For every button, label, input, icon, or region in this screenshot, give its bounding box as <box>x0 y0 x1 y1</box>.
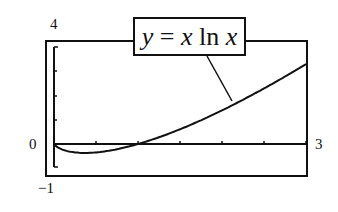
function-curve <box>54 64 306 153</box>
x-max-label: 3 <box>315 137 323 152</box>
eq-ln: ln <box>192 22 225 52</box>
y-zero-label: 0 <box>29 137 37 152</box>
eq-x1: x <box>181 22 193 52</box>
eq-equals: = <box>153 22 181 52</box>
y-max-label: 4 <box>50 17 58 32</box>
callout-pointer <box>207 56 232 101</box>
function-label-box: y = x ln x <box>133 17 246 56</box>
eq-x2: x <box>226 22 238 52</box>
eq-y: y <box>142 22 154 52</box>
plot-frame <box>46 41 307 176</box>
y-min-label: −1 <box>38 181 54 196</box>
